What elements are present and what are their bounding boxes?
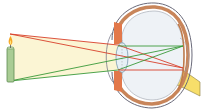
diagram-canvas	[0, 0, 201, 111]
iris-lower	[114, 71, 122, 92]
candle-body	[7, 48, 14, 82]
eye-image-formation-diagram: Image formation in the eye	[0, 0, 201, 111]
iris-upper	[114, 22, 122, 44]
vitreous-body	[122, 11, 184, 100]
light-cone	[10, 34, 118, 81]
